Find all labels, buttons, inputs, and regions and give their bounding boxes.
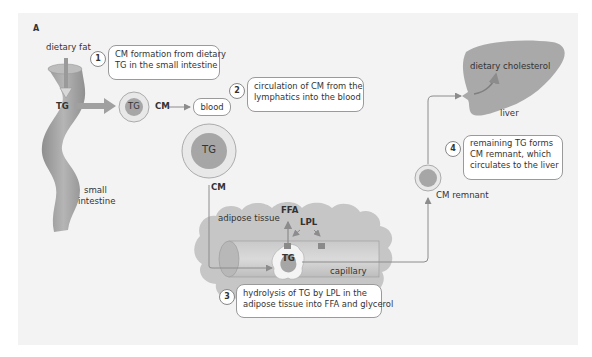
step-1-number: 1 [90, 51, 106, 67]
step-4-number: 4 [445, 141, 461, 157]
blood-label: blood [200, 102, 223, 112]
step-3-line-1: hydrolysis of TG by LPL in the [243, 288, 375, 299]
tg-large-cm-label: TG [199, 144, 219, 155]
dietary-fat-label: dietary fat [46, 42, 91, 53]
step-2-number: 2 [229, 83, 245, 99]
step-2-line-2: lymphatics into the blood [254, 92, 357, 103]
step-3-box: hydrolysis of TG by LPL in the adipose t… [236, 284, 382, 318]
tg-intestine-label: TG [56, 101, 69, 112]
dietary-cholesterol-label: dietary cholesterol [470, 61, 550, 72]
tg-capillary-label: TG [282, 253, 295, 264]
capillary-label: capillary [330, 266, 367, 277]
lpl-label: LPL [300, 217, 317, 228]
cm-label-2: CM [211, 182, 226, 193]
small-intestine-label-2: intestine [78, 196, 115, 207]
step-4-line-1: remaining TG forms [470, 138, 556, 149]
ffa-label: FFA [281, 205, 298, 216]
step-2-box: circulation of CM from the lymphatics in… [247, 77, 364, 112]
step-4-box: remaining TG forms CM remnant, which cir… [463, 135, 563, 180]
adipose-tissue-label: adipose tissue [218, 213, 280, 224]
cm-label-1: CM [155, 101, 170, 112]
step-1-box: CM formation from dietary TG in the smal… [108, 45, 220, 80]
cm-remnant-particle [415, 165, 441, 191]
blood-box: blood [193, 98, 231, 116]
step-2-line-1: circulation of CM from the [254, 81, 357, 92]
cm-remnant-label: CM remnant [436, 190, 489, 201]
panel-label: A [33, 23, 39, 34]
tg-small-cm-label: TG [124, 101, 144, 111]
step-1-line-1: CM formation from dietary [115, 49, 213, 60]
liver-icon [462, 40, 565, 115]
small-intestine-label-1: small [84, 185, 107, 196]
step-3-line-2: adipose tissue into FFA and glycerol [243, 299, 375, 310]
step-4-line-3: circulates to the liver [470, 160, 556, 171]
step-4-line-2: CM remnant, which [470, 149, 556, 160]
liver-label: liver [500, 108, 519, 119]
step-3-number: 3 [219, 289, 235, 305]
step-1-line-2: TG in the small intestine [115, 60, 213, 71]
